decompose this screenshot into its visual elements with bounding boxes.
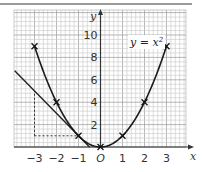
equation-exponent: 2 [158, 36, 164, 44]
y-axis-label: y [89, 10, 97, 23]
equation-label: y = x2 [129, 36, 164, 49]
equation-text: y = x [129, 36, 159, 49]
x-tick-label: −1 [70, 152, 86, 165]
x-tick-label: O [96, 152, 105, 165]
x-tick-label: −3 [26, 152, 42, 165]
x-tick-label: 2 [141, 152, 148, 165]
y-tick-label: 4 [91, 96, 98, 109]
x-tick-label: 1 [119, 152, 126, 165]
x-tick-labels: −3−2−1O123 [26, 152, 170, 165]
x-tick-label: −2 [48, 152, 64, 165]
top-rule [0, 3, 192, 5]
y-tick-label: 6 [91, 74, 98, 87]
x-tick-label: 3 [163, 152, 170, 165]
y-tick-label: 8 [91, 51, 98, 64]
axes [14, 9, 194, 150]
y-tick-label: 10 [84, 29, 98, 42]
y-tick-labels: 246810 [84, 29, 98, 132]
x-axis-arrow-icon [188, 145, 194, 150]
y-tick-label: 2 [91, 119, 98, 132]
x-axis-label: x [190, 150, 197, 163]
parabola-tangent-chart: −3−2−1O123 246810 x y y = x2 [0, 0, 203, 172]
